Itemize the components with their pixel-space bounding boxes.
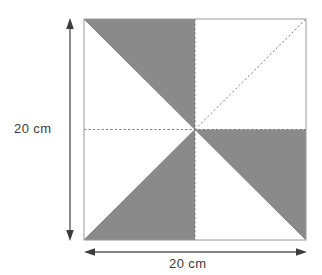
height-arrow-head-down [66, 230, 74, 241]
width-dimension-label: 20 cm [169, 256, 206, 271]
width-dimension-arrow [84, 248, 307, 256]
height-dimension-label: 20 cm [14, 121, 51, 136]
width-arrow-head-right [296, 248, 307, 256]
pinwheel-square-svg [0, 0, 322, 275]
width-arrow-head-left [84, 248, 95, 256]
height-arrow-head-up [66, 18, 74, 29]
height-dimension-arrow [66, 18, 74, 241]
geometry-figure: 20 cm 20 cm [0, 0, 322, 275]
